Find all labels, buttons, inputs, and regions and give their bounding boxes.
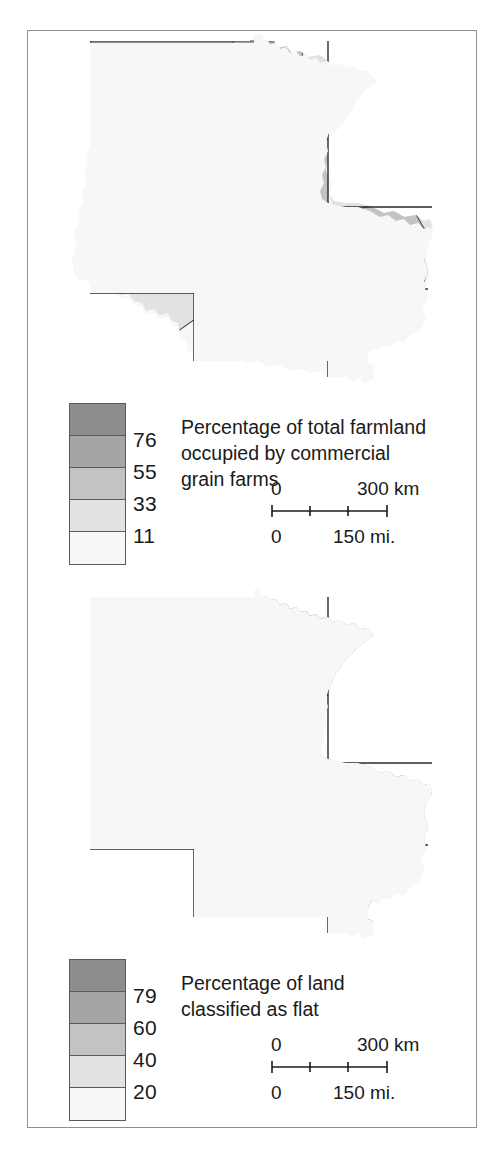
- legend-swatch-2: [70, 1024, 125, 1056]
- legend-swatch-3: [70, 500, 125, 532]
- scalebar-mi-zero: 0: [271, 1083, 282, 1102]
- legend-break-1: 60: [133, 1017, 157, 1038]
- scalebar-km-zero: 0: [271, 1035, 282, 1054]
- legend-swatch-4: [70, 1088, 125, 1120]
- legend-swatch-1: [70, 992, 125, 1024]
- legend-swatch-0: [70, 404, 125, 436]
- scalebar-mi-max: 150 mi.: [333, 527, 395, 546]
- legend-break-2: 33: [133, 493, 157, 514]
- legend-break-2: 40: [133, 1049, 157, 1070]
- scalebar-km-max: 300 km: [357, 479, 419, 498]
- map-panel-grain-farms: 76 55 33 11 Percentage of total farmland…: [28, 31, 478, 576]
- scalebar-graphic: [269, 503, 399, 519]
- legend-caption-flat-land: Percentage of land classified as flat: [181, 971, 345, 1023]
- scalebar-mi-max: 150 mi.: [333, 1083, 395, 1102]
- legend-swatch-2: [70, 468, 125, 500]
- scalebar-km-max: 300 km: [357, 1035, 419, 1054]
- state-borders: [90, 34, 432, 383]
- legend-swatch-4: [70, 532, 125, 564]
- legend-break-0: 76: [133, 429, 157, 450]
- scalebar-flat-land: 0 300 km 0 150 mi.: [269, 1035, 449, 1101]
- legend-break-1: 55: [133, 461, 157, 482]
- map-geometry-group: [72, 34, 438, 383]
- legend-break-3: 11: [133, 525, 155, 546]
- legend-swatch-1: [70, 436, 125, 468]
- legend-break-0: 79: [133, 985, 157, 1006]
- legend-grain-farms: 76 55 33 11 Percentage of total farmland…: [69, 403, 469, 573]
- state-borders: [90, 590, 432, 939]
- figure-frame: 76 55 33 11 Percentage of total farmland…: [27, 30, 477, 1128]
- map-panel-flat-land: 79 60 40 20 Percentage of land classifie…: [28, 587, 478, 1129]
- scalebar-graphic: [269, 1059, 399, 1075]
- legend-swatch-0: [70, 960, 125, 992]
- legend-break-3: 20: [133, 1081, 157, 1102]
- scalebar-mi-zero: 0: [271, 527, 282, 546]
- legend-swatch-column: [69, 403, 126, 565]
- legend-swatch-3: [70, 1056, 125, 1088]
- scalebar-km-zero: 0: [271, 479, 282, 498]
- map-geometry-group: [90, 590, 434, 939]
- legend-swatch-column: [69, 959, 126, 1121]
- choropleth-map-flat-land[interactable]: [28, 587, 478, 957]
- choropleth-map-grain-farms[interactable]: [28, 31, 478, 401]
- scalebar-grain-farms: 0 300 km 0 150 mi.: [269, 479, 449, 545]
- legend-flat-land: 79 60 40 20 Percentage of land classifie…: [69, 959, 469, 1129]
